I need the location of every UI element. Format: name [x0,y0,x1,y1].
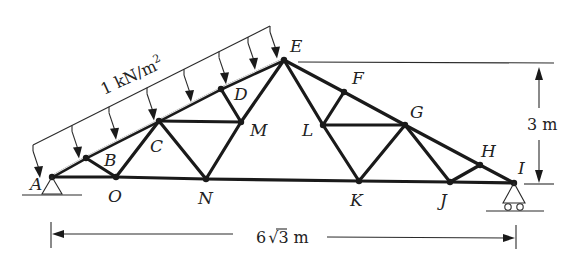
node-label-M: M [249,120,268,140]
member-AB [52,158,86,177]
node-label-H: H [480,141,497,161]
member-JI [450,182,514,183]
load-arrow-icon [248,37,258,70]
node-J [447,179,453,185]
node-label-C: C [150,136,163,156]
load-label: 1 kN/m2 [97,51,166,98]
arrow-left-icon [52,230,64,238]
node-label-B: B [103,150,117,170]
member-BC [86,121,159,158]
member-CM [159,121,241,122]
node-label-G: G [410,102,424,122]
roller-support-icon [486,183,544,211]
member-LK [323,125,359,181]
member-MN [206,122,241,179]
member-KJ [359,181,450,182]
member-FG [344,92,405,125]
height-dim-label: 3 m [527,115,557,134]
node-label-F: F [351,68,365,88]
node-label-E: E [289,36,303,56]
span-dimension: 6√3m [51,222,516,249]
node-E [281,57,287,63]
member-HI [480,165,514,183]
node-B [83,155,89,161]
node-label-O: O [108,186,122,206]
load-arrow-icon [109,107,119,140]
node-label-N: N [197,188,214,208]
node-N [203,176,209,182]
node-K [356,178,362,184]
node-D [218,86,224,92]
load-arrow-icon [147,88,157,121]
node-label-A: A [28,174,42,194]
member-CN [159,121,206,179]
node-H [477,162,483,168]
arrow-up-icon [535,67,543,80]
node-label-I: I [517,158,525,178]
member-NK [206,179,359,181]
node-L [320,122,326,128]
member-GH [405,125,480,165]
node-M [238,119,244,125]
load-arrow-icon [72,125,82,158]
load-arrow-icon [270,26,280,59]
node-C [156,118,162,124]
node-label-D: D [233,84,248,104]
node-label-J: J [437,190,448,210]
node-G [402,122,408,128]
arrow-down-icon [535,170,543,183]
arrow-right-icon [503,234,515,242]
node-F [341,89,347,95]
member-FL [323,92,344,125]
member-ON [116,177,206,179]
member-JH [450,165,480,182]
load-arrow-icon [184,69,194,102]
span-dim-label: 6√3m [256,228,309,247]
node-label-K: K [349,190,364,210]
member-KG [359,125,405,181]
node-O [113,174,119,180]
node-label-L: L [301,120,313,140]
member-GJ [405,125,450,182]
truss-diagram: ABCDEFGHIJKLMNO 1 kN/m2 3 m 6√3m [0,0,569,270]
load-arrow-icon [219,52,229,85]
